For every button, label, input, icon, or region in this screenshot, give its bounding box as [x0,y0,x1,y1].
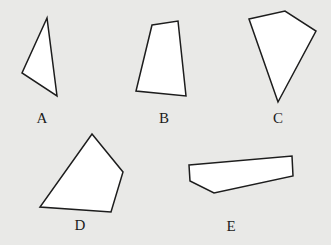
shape-label-e: E [221,219,241,234]
shape-label-c: C [268,111,288,126]
shape-label-b: B [154,111,174,126]
polygon-shape-d [40,134,123,212]
polygon-shape-a [22,18,57,96]
polygon-shape-e [189,156,293,193]
polygon-figure: A B C D E [0,0,331,245]
shape-label-a: A [32,111,52,126]
polygon-shape-c [249,11,316,102]
shape-label-d: D [70,218,90,233]
polygon-shape-b [136,21,186,96]
